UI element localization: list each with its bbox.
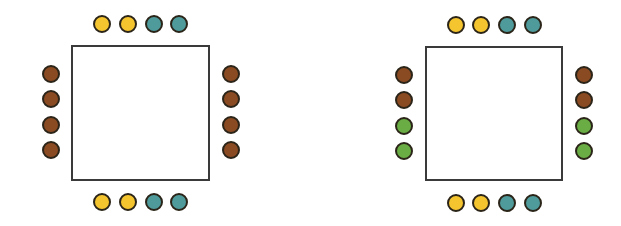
seat-bottom-2	[119, 193, 137, 211]
seat-right-3	[222, 116, 240, 134]
table-square	[425, 46, 563, 181]
seat-top-4	[524, 16, 542, 34]
seat-right-3	[575, 117, 593, 135]
seat-top-3	[498, 16, 516, 34]
seat-left-1	[395, 66, 413, 84]
seat-bottom-4	[170, 193, 188, 211]
seat-bottom-1	[93, 193, 111, 211]
seat-top-3	[145, 15, 163, 33]
seat-right-4	[222, 141, 240, 159]
seat-bottom-3	[145, 193, 163, 211]
seat-bottom-2	[472, 194, 490, 212]
seat-left-3	[42, 116, 60, 134]
seat-top-1	[93, 15, 111, 33]
seat-left-3	[395, 117, 413, 135]
seat-right-4	[575, 142, 593, 160]
seat-right-1	[222, 65, 240, 83]
seat-right-2	[222, 90, 240, 108]
seat-bottom-4	[524, 194, 542, 212]
seat-top-2	[472, 16, 490, 34]
seat-bottom-1	[447, 194, 465, 212]
seat-top-2	[119, 15, 137, 33]
seat-right-1	[575, 66, 593, 84]
seat-left-2	[42, 90, 60, 108]
seat-top-4	[170, 15, 188, 33]
table-square	[71, 45, 210, 181]
seat-left-2	[395, 91, 413, 109]
seat-left-4	[42, 141, 60, 159]
seat-bottom-3	[498, 194, 516, 212]
seat-top-1	[447, 16, 465, 34]
seat-left-1	[42, 65, 60, 83]
seat-right-2	[575, 91, 593, 109]
seat-left-4	[395, 142, 413, 160]
